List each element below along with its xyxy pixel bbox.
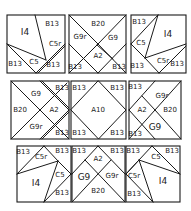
block-r2b2: B13 B13 A10 B13 B13 (71, 81, 126, 139)
label-b13: B13 (110, 84, 124, 92)
label-c5: C5 (151, 153, 160, 161)
label-b13: B13 (165, 147, 179, 155)
label-b13: B13 (170, 60, 184, 68)
block-r1b2: B20 G9r G9 A2 B13 B13 (68, 15, 126, 73)
block-r3b1: B13 C5r B13 C5 I4 B13 (16, 146, 71, 202)
label-c5r: C5r (157, 57, 169, 65)
label-a10: A10 (91, 106, 105, 114)
label-c5r: C5r (128, 172, 140, 180)
label-i4: I4 (159, 176, 168, 186)
label-b20: B20 (163, 106, 177, 114)
block-r1b3: B13 I4 C5 B13 C5r B13 (130, 15, 186, 73)
label-g9r: G9r (74, 33, 87, 41)
block-r2b3: B13 G9r A2 B20 B13 G9 (128, 81, 181, 139)
label-c5: C5 (55, 171, 64, 179)
label-b13: B13 (130, 62, 144, 70)
label-b13: B13 (132, 18, 146, 26)
label-b20: B20 (91, 187, 105, 195)
label-b13: B13 (8, 60, 22, 68)
label-i4: I4 (32, 178, 41, 188)
label-b13: B13 (68, 63, 82, 71)
label-c5r: C5r (35, 153, 47, 161)
label-a2: A2 (93, 155, 102, 163)
label-b13: B13 (126, 147, 140, 155)
label-a2: A2 (93, 52, 102, 60)
label-b13: B13 (16, 148, 30, 156)
label-b13: B13 (45, 20, 59, 28)
block-r3b3: B13 C5 B13 C5r I4 B13 (126, 146, 180, 202)
block-r2b1: G9 B13 B20 A2 G9r B13 (11, 81, 69, 139)
label-b13: B13 (128, 130, 142, 138)
label-b20: B20 (13, 106, 27, 114)
label-b13: B13 (55, 129, 69, 137)
label-c5r: C5r (49, 40, 61, 48)
label-g9: G9 (149, 122, 162, 132)
label-g9: G9 (31, 90, 41, 98)
label-g9r: G9r (30, 123, 43, 131)
label-b13: B13 (72, 147, 86, 155)
block-r1b1: I4 B13 C5r C5 B13 B13 (7, 15, 65, 73)
label-b20: B20 (91, 20, 105, 28)
label-g9r: G9r (106, 172, 119, 180)
label-b13: B13 (128, 83, 142, 91)
block-r3b2: B13 A2 B13 G9 G9r B20 (72, 146, 125, 202)
label-b13: B13 (110, 129, 124, 137)
label-b13: B13 (55, 147, 69, 155)
label-c5: C5 (29, 58, 38, 66)
label-a2: A2 (137, 106, 146, 114)
label-b13: B13 (72, 129, 86, 137)
label-b13: B13 (55, 84, 69, 92)
label-c5: C5 (136, 39, 145, 47)
label-i4: I4 (21, 27, 30, 37)
label-g9: G9 (78, 172, 91, 182)
label-b13: B13 (127, 190, 141, 198)
label-g9: G9 (108, 34, 118, 42)
label-b13: B13 (110, 147, 124, 155)
label-i4: I4 (164, 29, 173, 39)
label-b13: B13 (55, 189, 69, 197)
label-b13: B13 (46, 61, 60, 69)
label-b13: B13 (72, 84, 86, 92)
label-b13: B13 (112, 63, 126, 71)
quilt-diagram: I4 B13 C5r C5 B13 B13 B20 G9r G9 A2 B13 … (0, 0, 191, 211)
label-g9r: G9r (156, 92, 169, 100)
label-a2: A2 (49, 106, 58, 114)
